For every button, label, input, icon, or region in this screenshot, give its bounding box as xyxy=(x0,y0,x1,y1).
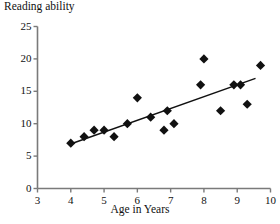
axes-group xyxy=(34,27,271,193)
y-tick-label: 10 xyxy=(8,117,32,129)
plot-canvas xyxy=(0,0,280,224)
data-point-marker xyxy=(89,126,98,135)
data-point-marker xyxy=(256,61,265,70)
data-point-marker xyxy=(243,100,252,109)
data-point-marker xyxy=(66,139,75,148)
data-point-marker xyxy=(196,80,205,89)
trendline xyxy=(69,78,255,144)
y-tick-label: 0 xyxy=(8,182,32,194)
data-points-group xyxy=(66,54,265,147)
data-point-marker xyxy=(216,106,225,115)
data-point-marker xyxy=(163,106,172,115)
scatter-plot-figure: Reading ability 0510152025345678910 Age … xyxy=(0,0,280,224)
data-point-marker xyxy=(169,119,178,128)
x-axis-label: Age in Years xyxy=(0,203,280,215)
y-tick-label: 15 xyxy=(8,84,32,96)
data-point-marker xyxy=(109,132,118,141)
data-point-marker xyxy=(236,80,245,89)
y-tick-label: 25 xyxy=(8,20,32,32)
data-point-marker xyxy=(199,54,208,63)
data-point-marker xyxy=(159,126,168,135)
data-point-marker xyxy=(123,119,132,128)
data-point-marker xyxy=(133,93,142,102)
y-tick-label: 20 xyxy=(8,52,32,64)
y-tick-label: 5 xyxy=(8,149,32,161)
